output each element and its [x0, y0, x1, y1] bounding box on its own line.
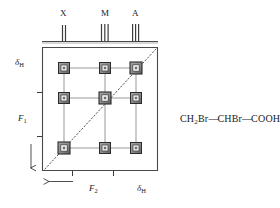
correlation-connector-lines — [64, 68, 136, 148]
bond-2: — — [242, 113, 251, 124]
multiplet-m-lines — [102, 24, 109, 42]
formula-cooh: COOH — [251, 113, 280, 124]
molecule-formula: CH2Br—CHBr—COOH — [180, 114, 280, 124]
multiplet-x-lines — [63, 25, 66, 42]
figure-root: X M A δH F1 F2 δH CH2Br—CHBr—COOH — [0, 0, 280, 208]
peak-x68 — [59, 63, 70, 74]
formula-chbr: CHBr — [217, 113, 242, 124]
f2-delta-subscript: H — [141, 187, 146, 194]
peak-x148-diagonal — [58, 142, 70, 154]
multiplet-label-a: A — [132, 9, 139, 18]
contour-peaks-group — [58, 62, 142, 154]
multiplet-a-lines — [133, 24, 139, 42]
f2-delta-h-label: δH — [137, 178, 146, 194]
f2-dimension-label: F2 — [89, 178, 98, 194]
f1-delta-h-label: δH — [15, 52, 24, 68]
peak-a98 — [131, 93, 142, 104]
f1-dimension-label: F1 — [18, 108, 27, 124]
peak-m68 — [100, 63, 111, 74]
f2-subscript: 2 — [95, 187, 98, 194]
peak-m148 — [100, 143, 111, 154]
peak-a68-diagonal — [130, 62, 142, 74]
f1-symbol: F — [18, 113, 24, 123]
peak-a148 — [131, 143, 142, 154]
f1-delta-subscript: H — [19, 61, 24, 68]
top-spectrum-group — [42, 24, 158, 43]
formula-ch2br: CH2Br — [180, 113, 208, 124]
f1-subscript: 1 — [24, 117, 27, 124]
multiplet-label-m: M — [101, 9, 109, 18]
cosy-spectrum-diagram — [0, 0, 280, 208]
multiplet-label-x: X — [60, 9, 67, 18]
peak-m98-diagonal — [99, 92, 111, 104]
peak-x98 — [59, 93, 70, 104]
f2-symbol: F — [89, 183, 95, 193]
